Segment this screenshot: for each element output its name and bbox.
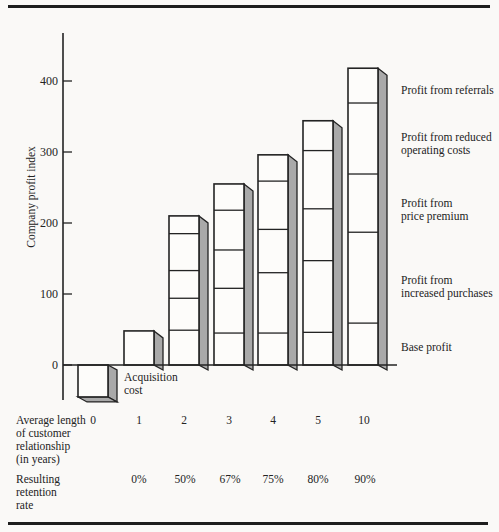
bar-front-face xyxy=(124,331,154,365)
bar-year-4 xyxy=(258,155,297,370)
year-label: 1 xyxy=(121,414,157,426)
bar-front-face xyxy=(348,68,378,365)
segment-label-increased-purchases: Profit from increased purchases xyxy=(401,274,497,300)
retention-rate: 67% xyxy=(208,473,252,485)
year-label: 3 xyxy=(211,414,247,426)
bar-side-face xyxy=(154,331,163,370)
retention-rate: 75% xyxy=(251,473,295,485)
year-label: 0 xyxy=(75,414,111,426)
bar-acquisition-cost xyxy=(78,365,117,402)
bar-front-face xyxy=(169,216,199,365)
bar-front-face xyxy=(214,184,244,365)
segment-label-price-premium: Profit from price premium xyxy=(401,197,497,223)
retention-rate: 90% xyxy=(343,473,387,485)
segment-label-operating-costs: Profit from reduced operating costs xyxy=(401,131,497,157)
retention-axis-title: Resulting retention rate xyxy=(16,473,116,512)
y-tick-label: 200 xyxy=(20,217,58,229)
bar-year-5 xyxy=(303,121,342,370)
bar-year-3 xyxy=(214,184,253,370)
bar-front-face xyxy=(78,365,108,397)
bar-front-face xyxy=(303,121,333,365)
segment-label-referrals: Profit from referrals xyxy=(401,84,497,97)
y-axis-title: Company profit index xyxy=(25,146,37,248)
bar-side-face xyxy=(199,216,208,370)
y-tick-label: 400 xyxy=(20,75,58,87)
bar-side-face xyxy=(244,184,253,370)
bottom-rule xyxy=(8,522,488,525)
bar-side-face xyxy=(108,365,117,402)
year-label: 5 xyxy=(300,414,336,426)
y-tick-label: 300 xyxy=(20,146,58,158)
segment-label-base-profit: Base profit xyxy=(401,341,497,354)
bar-year-2 xyxy=(169,216,208,370)
year-label: 4 xyxy=(255,414,291,426)
bar-side-face xyxy=(333,121,342,370)
bar-year-10 xyxy=(348,68,387,370)
y-tick-label: 100 xyxy=(20,288,58,300)
year-label: 2 xyxy=(166,414,202,426)
year-label: 10 xyxy=(346,414,382,426)
retention-rate: 50% xyxy=(163,473,207,485)
retention-rate: 80% xyxy=(296,473,340,485)
bar-year-1 xyxy=(124,331,163,370)
bar-side-face xyxy=(288,155,297,370)
y-tick-label: 0 xyxy=(20,359,58,371)
retention-rate: 0% xyxy=(117,473,161,485)
acquisition-cost-label: Acquisition cost xyxy=(124,371,204,397)
bar-side-face xyxy=(378,68,387,370)
